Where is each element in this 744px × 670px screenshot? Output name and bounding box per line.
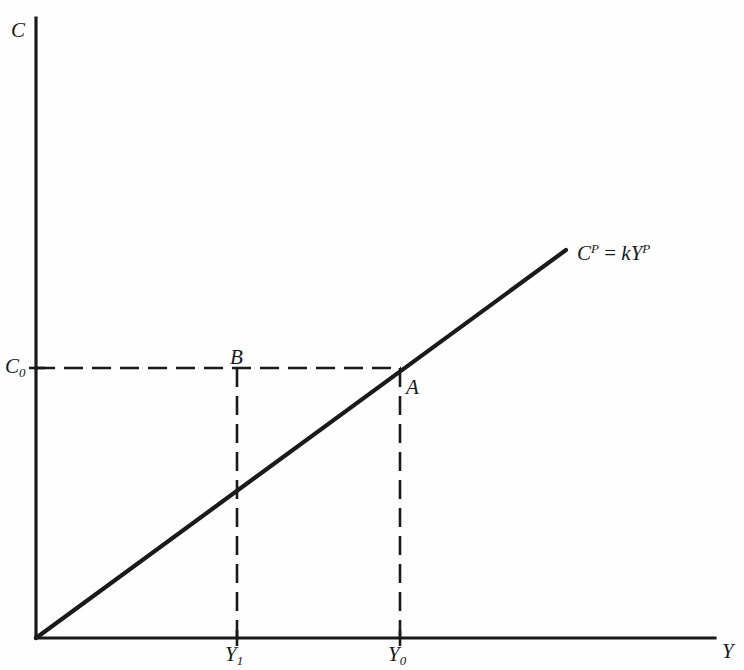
tick-label-y1-main: Y	[225, 642, 237, 666]
plot-area	[0, 0, 744, 670]
curve-label-y-superscript: P	[642, 241, 650, 256]
consumption-function-line	[36, 250, 566, 638]
tick-label-c0-main: C	[5, 354, 19, 378]
tick-label-y1-sub: 1	[237, 653, 244, 668]
curve-label-k: k	[621, 241, 630, 265]
curve-label-y: Y	[631, 241, 643, 265]
y-axis-label: C	[11, 20, 25, 41]
tick-label-c0-sub: 0	[19, 365, 26, 380]
figure-canvas: C Y C0 Y1 Y0 A B CP = kYP	[0, 0, 744, 670]
point-label-a: A	[406, 377, 419, 398]
curve-equation-label: CP = kYP	[577, 243, 650, 264]
tick-label-y0-main: Y	[388, 642, 400, 666]
x-axis-tick-label-y1: Y1	[225, 644, 243, 665]
tick-label-y0-sub: 0	[400, 653, 407, 668]
x-axis-tick-label-y0: Y0	[388, 644, 406, 665]
y-axis-tick-label-c0: C0	[5, 356, 26, 377]
curve-label-equals: =	[599, 241, 621, 265]
curve-label-c-superscript: P	[591, 241, 599, 256]
x-axis-label: Y	[722, 641, 734, 662]
point-label-b: B	[230, 347, 243, 368]
curve-label-c: C	[577, 241, 591, 265]
